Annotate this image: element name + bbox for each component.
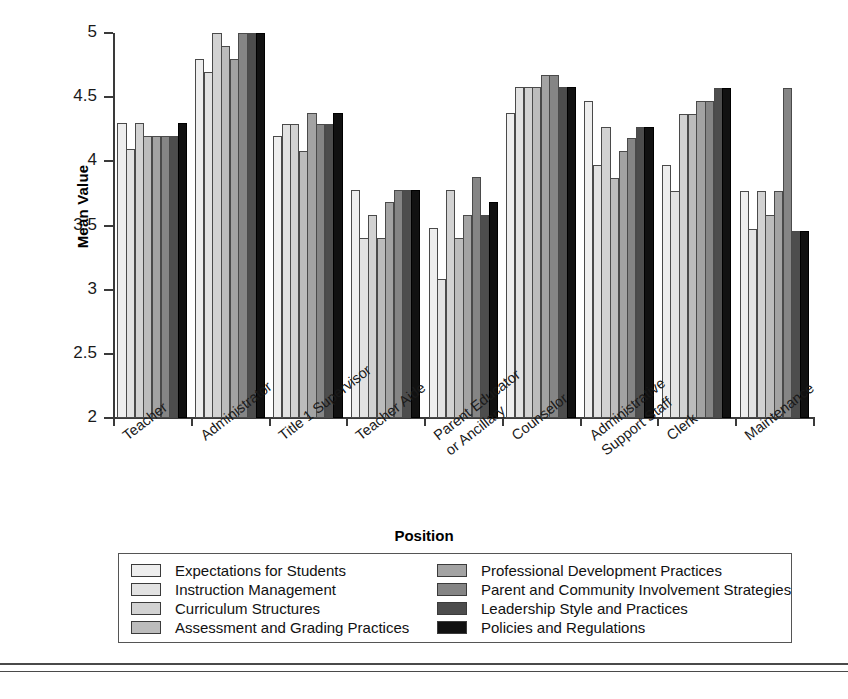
x-axis-tick-mark (269, 417, 271, 426)
x-axis-title: Position (0, 527, 848, 544)
legend-label: Expectations for Students (175, 562, 346, 579)
legend-label: Leadership Style and Practices (481, 600, 688, 617)
y-axis-tick-label: 4.5 (73, 86, 97, 106)
x-axis-tick-mark (191, 417, 193, 426)
legend-item: Policies and Regulations (437, 618, 787, 637)
legend-item: Assessment and Grading Practices (131, 618, 451, 637)
legend-label: Assessment and Grading Practices (175, 619, 409, 636)
legend-swatch (131, 621, 161, 634)
bar (333, 113, 342, 418)
legend-swatch (131, 564, 161, 577)
legend: Expectations for StudentsInstruction Man… (118, 553, 792, 643)
footer-rule-thin (0, 671, 848, 672)
y-axis-tick-mark (104, 32, 113, 34)
y-axis-tick-mark (104, 96, 113, 98)
legend-label: Instruction Management (175, 581, 336, 598)
legend-column-left: Expectations for StudentsInstruction Man… (131, 561, 451, 637)
x-axis-tick-mark (735, 417, 737, 426)
bar-group (195, 33, 264, 418)
bar-group (740, 33, 809, 418)
legend-swatch (131, 602, 161, 615)
y-axis-tick-mark (104, 225, 113, 227)
y-axis-tick-mark (104, 353, 113, 355)
legend-swatch (437, 621, 467, 634)
y-axis-tick-label: 2.5 (73, 343, 97, 363)
y-axis-tick-mark (104, 160, 113, 162)
x-axis-tick-mark (580, 417, 582, 426)
legend-swatch (437, 564, 467, 577)
bar-group (273, 33, 342, 418)
y-axis-tick-mark (104, 417, 113, 419)
legend-item: Professional Development Practices (437, 561, 787, 580)
legend-swatch (437, 602, 467, 615)
bar (567, 87, 576, 418)
bar-group (351, 33, 420, 418)
legend-item: Curriculum Structures (131, 599, 451, 618)
legend-label: Professional Development Practices (481, 562, 722, 579)
bar (178, 123, 187, 418)
bar (722, 88, 731, 418)
bar (644, 127, 653, 418)
bar-chart-figure: 22.533.544.55 Mean Value TeacherAdminist… (0, 0, 848, 699)
x-axis-tick-mark (424, 417, 426, 426)
legend-item: Expectations for Students (131, 561, 451, 580)
footer-rule-thick (0, 663, 848, 665)
bar-group (429, 33, 498, 418)
bar-groups (113, 33, 813, 418)
bar-group (662, 33, 731, 418)
legend-item: Instruction Management (131, 580, 451, 599)
bar-group (117, 33, 186, 418)
y-axis-title: Mean Value (74, 117, 91, 297)
legend-label: Policies and Regulations (481, 619, 645, 636)
legend-column-right: Professional Development PracticesParent… (437, 561, 787, 637)
y-axis-tick-label: 2 (88, 407, 97, 427)
x-axis-tick-mark (813, 417, 815, 426)
legend-label: Curriculum Structures (175, 600, 320, 617)
y-axis-tick-label: 5 (88, 22, 97, 42)
legend-label: Parent and Community Involvement Strateg… (481, 581, 791, 598)
legend-item: Leadership Style and Practices (437, 599, 787, 618)
x-axis-tick-mark (346, 417, 348, 426)
legend-item: Parent and Community Involvement Strateg… (437, 580, 787, 599)
bar-group (506, 33, 575, 418)
x-axis-tick-mark (113, 417, 115, 426)
legend-swatch (437, 583, 467, 596)
legend-swatch (131, 583, 161, 596)
y-axis-tick-mark (104, 289, 113, 291)
bar (256, 33, 265, 418)
bar-group (584, 33, 653, 418)
